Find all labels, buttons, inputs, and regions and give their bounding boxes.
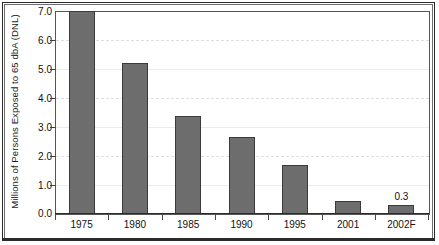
x-tick-label-1980: 1980 xyxy=(124,219,146,230)
x-tick-label-1975: 1975 xyxy=(70,219,92,230)
x-tick-label-2001: 2001 xyxy=(337,219,359,230)
bar-slot-2001 xyxy=(322,11,375,214)
bar-slot-1995 xyxy=(268,11,321,214)
y-axis-title: Millions of Persons Exposed to 65 dbA (D… xyxy=(9,6,20,218)
bar-slot-1990 xyxy=(215,11,268,214)
x-tick-label-1990: 1990 xyxy=(230,219,252,230)
y-tick-label: 7.0 xyxy=(38,6,52,17)
x-axis-tick-mark xyxy=(428,214,429,220)
bar-value-label-2002F: 0.3 xyxy=(394,191,408,202)
bar-slot-1985 xyxy=(162,11,215,214)
x-tick-label-2002F: 2002F xyxy=(387,219,415,230)
bar-1980[interactable] xyxy=(122,63,148,214)
bar-slot-1980 xyxy=(108,11,161,214)
bar-slot-1975 xyxy=(55,11,108,214)
chart-figure: Millions of Persons Exposed to 65 dbA (D… xyxy=(0,0,439,245)
bar-1990[interactable] xyxy=(229,137,255,214)
y-tick-label: 0.0 xyxy=(38,208,52,219)
bar-1975[interactable] xyxy=(69,11,95,214)
x-tick-label-1995: 1995 xyxy=(284,219,306,230)
bar-slot-2002F: 0.3 xyxy=(375,11,428,214)
bar-1995[interactable] xyxy=(282,165,308,214)
bar-1985[interactable] xyxy=(175,116,201,214)
figure-bottom-rule xyxy=(3,238,434,240)
x-axis-line xyxy=(55,213,429,214)
x-axis-tick-labels: 1975 1980 1985 1990 1995 2001 2002F xyxy=(55,219,428,235)
bar-series: 0.3 xyxy=(55,11,428,214)
y-axis-tick-labels: 7.0 6.0 5.0 4.0 3.0 2.0 1.0 0.0 xyxy=(24,5,52,220)
x-tick-label-1985: 1985 xyxy=(177,219,199,230)
